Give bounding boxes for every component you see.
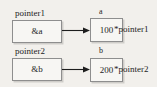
pointer1-name-label: pointer1 (15, 9, 45, 18)
arrow-pointer1-to-a (62, 27, 90, 34)
variable-a-value: 100 (100, 26, 114, 35)
pointer2-name-label: pointer2 (15, 47, 45, 56)
pointer1-value: &a (32, 27, 43, 36)
arrow-pointer2-to-b (62, 66, 90, 73)
pointer2-value: &b (31, 65, 43, 74)
pointer-diagram: pointer1 &a a 100 *pointer1 pointer2 &b (0, 0, 157, 87)
deref-pointer2-label: *pointer2 (114, 65, 149, 74)
variable-b-value: 200 (100, 66, 114, 75)
variable-b-name-label: b (99, 47, 103, 55)
right-arrow-icon (62, 66, 90, 73)
right-arrow-icon (62, 27, 90, 34)
variable-a-name-label: a (99, 8, 103, 16)
deref-pointer1-label: *pointer1 (114, 25, 149, 34)
pointer2-box: &b (12, 58, 62, 81)
pointer1-box: &a (12, 20, 62, 43)
